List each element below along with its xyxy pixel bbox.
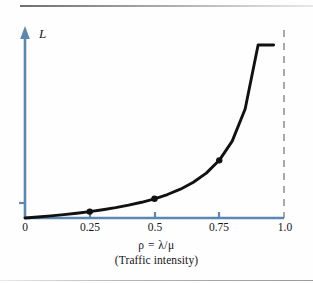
data-point-marker <box>151 196 157 202</box>
figure-container: L 0 0.25 0.5 0.75 1.0 ρ = λ/μ (Traffic i… <box>0 0 313 283</box>
data-point-marker <box>216 157 222 163</box>
x-tick-label-0.75: 0.75 <box>199 221 239 233</box>
data-point-marker <box>87 208 93 214</box>
data-point-markers <box>87 157 223 215</box>
x-tick-label-0: 0 <box>10 221 40 233</box>
bottom-divider-rule <box>0 280 313 281</box>
x-axis-caption-description: (Traffic intensity) <box>0 253 313 268</box>
x-tick-label-0.25: 0.25 <box>70 221 110 233</box>
x-tick-label-0.5: 0.5 <box>138 221 172 233</box>
y-axis-arrowhead-icon <box>20 26 30 39</box>
y-axis-label: L <box>39 26 47 42</box>
x-axis-caption-formula: ρ = λ/μ <box>0 238 313 253</box>
x-axis-caption: ρ = λ/μ (Traffic intensity) <box>0 238 313 268</box>
x-tick-label-1.0: 1.0 <box>268 221 302 233</box>
curve-line <box>25 45 274 218</box>
